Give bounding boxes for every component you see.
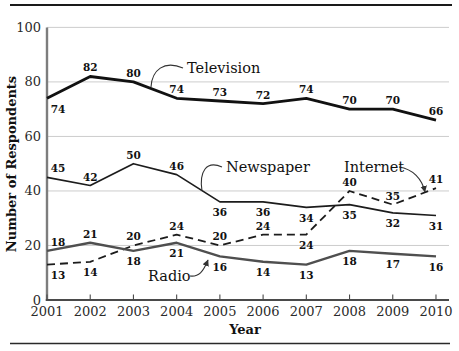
y-tick-label-60: 60 <box>24 129 41 144</box>
data-label-newspaper-2009: 32 <box>385 217 400 229</box>
data-label-newspaper-2003: 50 <box>126 149 141 161</box>
y-tick-label-80: 80 <box>24 74 41 89</box>
data-label-newspaper-2006: 36 <box>256 206 271 218</box>
data-label-internet-2010: 41 <box>429 173 444 185</box>
series-label-radio: Radio <box>148 268 191 284</box>
x-tick-label-2007: 2007 <box>290 304 323 319</box>
data-label-television-2006: 72 <box>256 89 271 101</box>
data-label-television-2007: 74 <box>299 83 314 95</box>
data-label-radio-2004: 21 <box>169 247 184 259</box>
data-label-internet-2003: 20 <box>126 230 141 242</box>
data-label-newspaper-2005: 36 <box>213 206 228 218</box>
data-label-television-2005: 73 <box>213 86 228 98</box>
x-tick-label-2006: 2006 <box>247 304 280 319</box>
data-label-internet-2006: 24 <box>256 220 271 232</box>
x-tick-label-2003: 2003 <box>117 304 150 319</box>
y-tick-label-20: 20 <box>24 238 41 253</box>
data-label-internet-2005: 20 <box>213 230 228 242</box>
series-label-television: Television <box>187 60 260 76</box>
x-tick-label-2010: 2010 <box>419 304 452 319</box>
y-axis-title: Number of Respondents <box>4 76 19 252</box>
x-tick-label-2002: 2002 <box>74 304 107 319</box>
pointer-curve-radio <box>190 260 208 276</box>
x-tick-label-2004: 2004 <box>160 304 193 319</box>
series-label-internet: Internet <box>344 159 404 175</box>
data-label-internet-2004: 24 <box>169 220 184 232</box>
y-tick-label-100: 100 <box>16 20 41 35</box>
data-label-television-2009: 70 <box>385 94 400 106</box>
media-survey-line-chart-figure: 2001200220032004200520062007200820092010… <box>0 0 459 351</box>
data-label-newspaper-2010: 31 <box>429 220 444 232</box>
chart-svg: 2001200220032004200520062007200820092010… <box>0 0 459 351</box>
data-label-newspaper-2002: 42 <box>83 171 98 183</box>
data-label-internet-2001: 13 <box>51 269 66 281</box>
data-label-internet-2007: 24 <box>299 239 314 251</box>
data-label-radio-2010: 16 <box>429 261 444 273</box>
data-label-television-2002: 82 <box>83 61 98 73</box>
data-label-radio-2005: 16 <box>213 261 228 273</box>
data-label-radio-2001: 18 <box>51 236 66 248</box>
data-label-radio-2002: 21 <box>83 228 98 240</box>
x-tick-label-2008: 2008 <box>333 304 366 319</box>
data-label-television-2008: 70 <box>342 94 357 106</box>
series-line-radio <box>47 243 436 265</box>
data-label-internet-2008: 40 <box>342 176 357 188</box>
data-label-radio-2009: 17 <box>385 258 400 270</box>
chart-canvas: 2001200220032004200520062007200820092010… <box>0 0 459 351</box>
x-tick-label-2009: 2009 <box>376 304 409 319</box>
data-label-newspaper-2007: 34 <box>299 212 314 224</box>
pointer-curve-newspaper <box>201 165 222 191</box>
data-label-newspaper-2001: 45 <box>51 162 66 174</box>
series-label-newspaper: Newspaper <box>226 159 310 175</box>
data-label-internet-2009: 35 <box>385 190 400 202</box>
series-line-television <box>47 77 436 121</box>
data-label-radio-2003: 18 <box>126 255 141 267</box>
x-tick-label-2005: 2005 <box>203 304 236 319</box>
data-label-radio-2008: 18 <box>342 255 357 267</box>
data-label-television-2010: 66 <box>429 105 444 117</box>
data-label-newspaper-2008: 35 <box>342 209 357 221</box>
y-tick-label-0: 0 <box>33 293 41 308</box>
data-label-television-2004: 74 <box>169 83 184 95</box>
data-label-television-2001: 74 <box>51 103 66 115</box>
data-label-radio-2007: 13 <box>299 269 314 281</box>
data-label-television-2003: 80 <box>126 67 141 79</box>
data-label-radio-2006: 14 <box>256 266 271 278</box>
data-label-newspaper-2004: 46 <box>169 160 184 172</box>
y-tick-label-40: 40 <box>24 183 41 198</box>
x-axis-title: Year <box>228 322 261 337</box>
data-label-internet-2002: 14 <box>83 266 98 278</box>
